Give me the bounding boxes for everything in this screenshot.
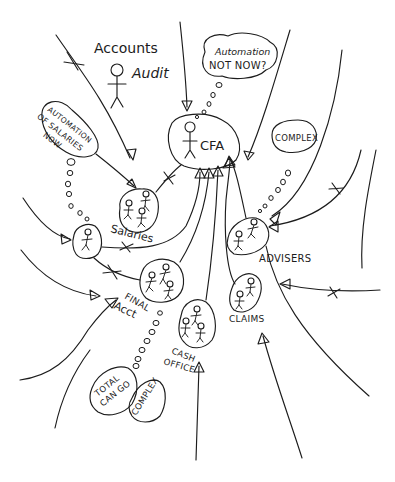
cfa-label: CFA xyxy=(200,138,224,153)
salaries-label: Salaries xyxy=(109,222,155,245)
bottom-to-claims-edge xyxy=(258,333,302,458)
total-can-go-bubble: TOTAL CAN GO xyxy=(90,367,137,415)
person-icon xyxy=(146,272,156,292)
cfa-thought-line1: Automation xyxy=(214,46,270,57)
unnamed-individual-node xyxy=(73,224,102,258)
advisers-label: ADVISERS xyxy=(259,253,312,264)
rich-picture-diagram: Accounts Audit CFA Automation NOT NOW? xyxy=(0,0,395,482)
person-icon xyxy=(234,231,243,250)
person-icon xyxy=(137,208,146,227)
claims-label: CLAIMS xyxy=(229,314,265,324)
bottom-to-cash-office-edge xyxy=(194,362,204,460)
cash-office-to-cfa-edge xyxy=(206,166,223,300)
final-acct-node: FINAL Acct xyxy=(112,259,184,321)
person-icon xyxy=(191,306,201,325)
salaries-thought-bubble: AUTOMATION OF SALARIES NOW xyxy=(29,102,99,221)
claims-node: CLAIMS xyxy=(229,274,265,324)
advisers-complex-bubble: COMPLEX xyxy=(258,120,318,213)
individual-to-final-acct-edge xyxy=(94,258,140,280)
person-icon xyxy=(235,291,244,309)
left-to-individual-edge xyxy=(23,198,71,244)
person-icon xyxy=(82,229,92,250)
top-to-cfa-edge xyxy=(180,22,192,111)
final-acct-complex-text: COMPLEX xyxy=(129,375,160,417)
final-acct-to-cfa-edge xyxy=(180,168,214,262)
person-icon xyxy=(246,278,255,296)
cash-office-node: CASH OFFICE xyxy=(162,300,215,375)
cfa-node: CFA xyxy=(168,114,239,169)
person-icon xyxy=(196,323,205,342)
salaries-node: Salaries xyxy=(109,189,158,246)
individual-to-cfa-edge xyxy=(102,168,205,252)
person-icon xyxy=(181,318,190,337)
left-to-final-acct-edge xyxy=(21,250,100,300)
cfa-thought-bubble: Automation NOT NOW? xyxy=(195,33,277,118)
person-icon xyxy=(124,200,133,219)
accounts-label: Accounts xyxy=(94,40,158,56)
person-icon xyxy=(183,122,197,158)
salaries-bubble-to-salaries-edge xyxy=(96,154,136,188)
final-acct-thought-chain xyxy=(133,311,162,369)
advisers-node: ADVISERS xyxy=(227,218,311,264)
conflict-cross-icon xyxy=(164,172,175,184)
claims-to-cfa-edge xyxy=(223,158,235,284)
advisers-to-cfa-edge xyxy=(225,156,246,218)
conflict-cross-icon xyxy=(120,242,133,252)
right-bottom-curve-edge xyxy=(266,246,369,396)
advisers-outer-curve xyxy=(362,150,376,268)
right-to-claims-edge xyxy=(280,279,380,298)
salaries-to-cfa-edge xyxy=(156,165,181,192)
audit-label: Audit xyxy=(131,65,169,81)
person-icon xyxy=(248,219,258,238)
conflict-cross-icon xyxy=(328,287,340,298)
accounts-audit-node: Accounts Audit xyxy=(94,40,169,108)
advisers-complex-text: COMPLEX xyxy=(275,133,318,143)
cfa-thought-line2: NOT NOW? xyxy=(209,60,267,71)
person-icon xyxy=(108,64,126,108)
